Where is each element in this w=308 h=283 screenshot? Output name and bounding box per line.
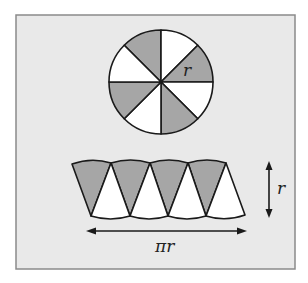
height-label: r: [277, 178, 286, 198]
sectored-circle: [109, 30, 213, 134]
width-label: πr: [154, 236, 175, 256]
circle-area-diagram: r πr r: [0, 0, 308, 283]
circle-radius-label: r: [183, 60, 192, 80]
rearranged-sectors: [72, 160, 245, 219]
